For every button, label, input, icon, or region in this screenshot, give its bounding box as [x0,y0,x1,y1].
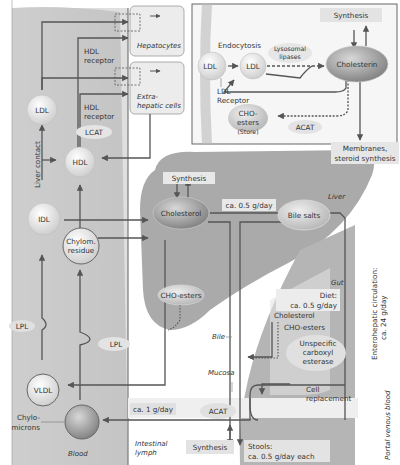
svg-text:lipases: lipases [279,53,300,61]
inset-ldl-inner: LDL [240,53,266,79]
inset-synthesis-box: Synthesis [320,8,382,22]
svg-text:Synthesis: Synthesis [193,443,228,452]
svg-text:LDL: LDL [246,62,260,71]
svg-text:carboxyl: carboxyl [303,348,334,357]
svg-text:CHO-: CHO- [239,109,258,118]
inset-ldl-outer: LDL [198,52,226,80]
enterohepatic-label: Enterohepatic circulation: [370,268,379,360]
svg-text:ca. 24 g/day: ca. 24 g/day [379,295,388,340]
lpl-label-1: LPL [9,320,35,332]
gut-synthesis-box: Synthesis [186,440,234,454]
svg-text:Bile salts: Bile salts [288,211,321,220]
svg-text:ca. 0.5 g/day each: ca. 0.5 g/day each [248,452,314,461]
svg-text:LCAT: LCAT [85,128,103,137]
svg-text:ca. 0.5 g/day: ca. 0.5 g/day [290,301,338,310]
svg-text:Stools:: Stools: [248,442,272,451]
lpl-label-2: LPL [98,337,130,351]
svg-text:hepatic cells: hepatic cells [137,102,181,110]
liver-flow-rate: ca. 0.5 g/day [222,199,276,211]
svg-text:LDL: LDL [35,106,49,115]
svg-text:ca. 0.5 g/day: ca. 0.5 g/day [226,201,274,210]
svg-text:replacement: replacement [306,394,352,403]
svg-text:esters: esters [237,118,259,127]
svg-text:Diet:: Diet: [320,291,337,300]
svg-text:residue: residue [68,246,95,255]
cell-replacement-label: Cell [306,385,319,394]
bile-label: Bile [212,333,225,341]
svg-text:LPL: LPL [16,322,28,331]
extrahepatic-label: Extra- [137,93,158,101]
svg-text:lymph: lymph [135,449,157,457]
cholesterol-metabolism-diagram: LDL HDL IDL Chylom. residue VLDL Chylo- … [0,0,400,465]
bile-salts-node: Bile salts [278,200,330,230]
svg-text:LDL: LDL [203,62,217,71]
svg-text:Synthesis: Synthesis [172,174,207,183]
hdl-receptor-label-1: HDL [84,47,99,56]
liver-contact-label: Liver contact [33,141,42,188]
svg-text:Membranes,: Membranes, [343,144,388,153]
gut-cholesterol-label: Cholesterol [274,311,315,320]
hdl-receptor-label-2: HDL [84,103,99,112]
svg-text:Cholesterin: Cholesterin [337,60,378,69]
svg-text:ca. 1 g/day: ca. 1 g/day [133,405,174,414]
gut-label: Gut [331,279,344,287]
chylomicrons-node [65,405,99,439]
ldl-receptor-label: LDL [217,87,231,96]
hdl-node: HDL [65,147,95,177]
gut-acat-label: ACAT [200,403,236,419]
svg-text:esterase: esterase [303,357,335,366]
cholesterin-node: Cholesterin [326,46,388,82]
svg-text:ACAT: ACAT [296,123,315,132]
svg-text:Cholesterol: Cholesterol [161,209,202,218]
svg-text:steroid synthesis: steroid synthesis [335,154,396,163]
liver-label: Liver [328,193,346,201]
inset-acat-label: ACAT [288,120,322,134]
portal-venous-label: Portal venous blood [384,390,392,460]
endocytosis-label: Endocytosis [218,41,261,50]
svg-text:ACAT: ACAT [209,407,228,416]
svg-text:HDL: HDL [73,158,88,167]
chylom-residue-node: Chylom. residue [63,228,99,264]
svg-text:VLDL: VLDL [34,386,52,395]
diet-box: Diet: ca. 0.5 g/day [276,289,340,311]
liver-cholesterol-node: Cholesterol [153,197,209,229]
svg-text:Unspecific: Unspecific [300,339,337,348]
chylomicrons-label: Chylo- [17,413,40,422]
svg-text:receptor: receptor [84,112,114,121]
hepatocytes-label: Hepatocytes [137,42,181,50]
stools-box: Stools: ca. 0.5 g/day each [244,440,330,462]
liver-synthesis-box: Synthesis [163,172,215,184]
idl-node: IDL [28,203,60,235]
lysosomal-lipases-label: Lysosomal lipases [268,43,312,63]
gut-cho-esters-label: CHO-esters [284,323,325,332]
svg-text:microns: microns [12,423,41,432]
mucosa-label: Mucosa [208,369,235,377]
svg-text:receptor: receptor [84,56,114,65]
svg-text:CHO-esters: CHO-esters [161,291,202,300]
svg-text:Receptor: Receptor [217,96,249,105]
lymph-rate-box: ca. 1 g/day [130,403,176,415]
svg-text:Synthesis: Synthesis [334,11,369,20]
blood-label: Blood [68,450,88,458]
svg-text:Lysosomal: Lysosomal [274,45,306,53]
ldl-node: LDL [27,95,57,125]
svg-text:(Store): (Store) [237,128,258,135]
liver-cho-esters-node: CHO-esters [158,285,204,305]
lcat-label: LCAT [76,125,112,139]
esterase-node: Unspecific carboxyl esterase [286,335,346,371]
membranes-box: Membranes, steroid synthesis [331,142,399,164]
vldl-node: VLDL [27,374,59,406]
svg-text:Chylom.: Chylom. [66,237,96,246]
intestinal-lymph-label: Intestinal [135,440,168,448]
svg-text:IDL: IDL [38,215,50,224]
svg-text:LPL: LPL [110,340,122,349]
